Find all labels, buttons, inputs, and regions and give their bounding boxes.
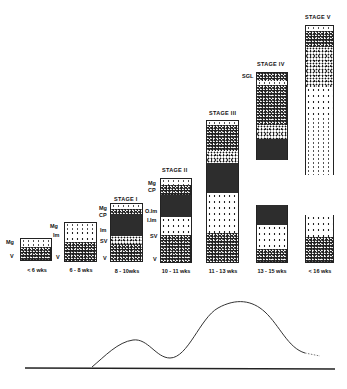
- curve-line: [92, 302, 305, 367]
- baseline: [25, 368, 335, 369]
- curve-dotted-tail: [305, 353, 320, 356]
- development-curve: [0, 0, 347, 389]
